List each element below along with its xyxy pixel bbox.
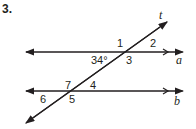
angle-5: 5: [69, 94, 75, 105]
label-b: b: [174, 96, 180, 107]
diagram: 3. t a b 1 2 3 34° 4 5 6 7: [0, 0, 196, 129]
angle-4: 4: [90, 80, 96, 91]
label-a: a: [176, 55, 182, 66]
angle-1: 1: [117, 38, 123, 49]
angle-3: 3: [126, 55, 132, 66]
angle-34-degrees: 34°: [91, 55, 108, 66]
angle-6: 6: [40, 94, 46, 105]
angle-2: 2: [150, 38, 156, 49]
angle-7: 7: [65, 80, 71, 91]
label-t: t: [159, 10, 162, 21]
